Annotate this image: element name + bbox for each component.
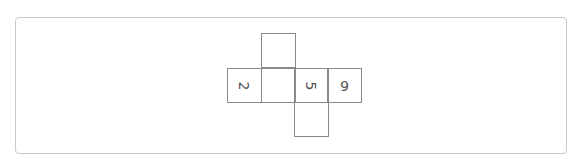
face-left-label: 2 — [237, 81, 251, 90]
face-top — [261, 33, 296, 68]
face-center-right: 5 — [294, 68, 329, 103]
cube-net: 2 5 6 — [0, 0, 580, 164]
face-right-label: 6 — [340, 79, 349, 93]
face-center — [261, 68, 296, 103]
face-right: 6 — [327, 68, 362, 103]
face-bottom — [294, 102, 329, 137]
face-center-right-label: 5 — [304, 81, 318, 90]
face-left: 2 — [227, 68, 262, 103]
